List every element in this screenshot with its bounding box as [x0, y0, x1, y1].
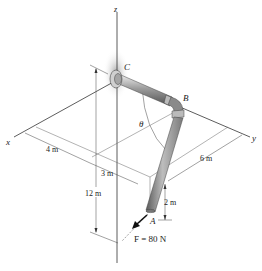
x-axis-label: x: [5, 137, 10, 147]
pipe-elbow-b: [168, 97, 183, 112]
dimension-3m: 3 m: [101, 169, 114, 178]
extension-line: [90, 232, 118, 243]
force-label: F = 80 N: [134, 234, 167, 244]
dimension-6m: 6 m: [200, 154, 213, 163]
dimension-4m: 4 m: [46, 145, 59, 154]
point-c-label: C: [124, 62, 131, 72]
point-a-label: A: [149, 216, 156, 226]
point-b-label: B: [183, 93, 189, 103]
pipe-segment-cb: [119, 75, 172, 105]
dimension-12m: 12 m: [85, 189, 102, 198]
arrowhead: [164, 184, 167, 189]
pipe-assembly-diagram: z x y 4 m 3 m 6 m 12 m 2 m θ C B: [0, 0, 262, 271]
angle-theta-label: θ: [139, 119, 144, 129]
dimension-line-3m: [90, 163, 138, 184]
arrowhead: [164, 215, 167, 220]
flange-c-inner: [115, 74, 122, 85]
x-axis: [14, 80, 117, 137]
force-arrow-shaft: [137, 215, 147, 224]
dimension-2m: 2 m: [164, 198, 177, 207]
arrowhead: [95, 228, 98, 233]
y-axis-label: y: [251, 133, 256, 143]
pipe-end-a: [146, 209, 155, 212]
